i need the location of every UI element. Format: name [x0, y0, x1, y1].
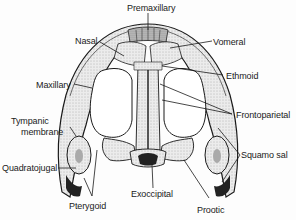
label-exoccipital: Exoccipital: [131, 189, 173, 199]
label-premaxillary: Premaxillary: [127, 3, 175, 13]
label-tympanic-line2: membrane: [21, 127, 63, 137]
label-vomeral: Vomeral: [213, 37, 245, 47]
ethmoid-bone: [134, 62, 162, 70]
left-orbit: [90, 68, 132, 137]
label-maxillary: Maxillary: [36, 80, 71, 90]
skull-diagram: Premaxillary Nasal Vomeral Maxillary Eth…: [0, 0, 296, 220]
label-nasal: Nasal: [75, 36, 98, 46]
label-pterygoid: Pterygoid: [69, 201, 106, 211]
label-tympanic-line1: Tympanic: [11, 116, 49, 126]
label-squamosal: Squamo sal: [241, 150, 288, 160]
label-prootic: Prootic: [197, 205, 224, 215]
label-quadratojugal: Quadratojugal: [2, 163, 57, 173]
label-frontoparietal: Frontoparietal: [236, 110, 290, 120]
label-ethmoid: Ethmoid: [226, 71, 258, 81]
right-orbit: [164, 68, 206, 137]
